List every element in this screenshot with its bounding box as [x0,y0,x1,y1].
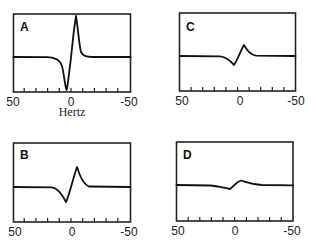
panel-a-trace [14,16,131,90]
panel-a-xlabel: Hertz [59,105,86,119]
panel-c-xtick-neg50: -50 [287,94,305,108]
panel-c: C 50 0 -50 [175,13,305,108]
panel-b-xtick-50: 50 [8,225,22,239]
panel-b-label: B [20,148,29,162]
panel-b-xtick-0: 0 [69,225,76,239]
panel-d-xtick-0: 0 [232,224,239,238]
panel-b-xtick-neg50: -50 [120,225,138,239]
panel-a-label: A [20,20,29,34]
panel-d-frame [177,142,294,221]
panel-c-xtick-0: 0 [237,94,244,108]
panel-d: D 50 0 -50 [171,142,301,238]
figure: A 50 0 -50 Hertz C 50 0 -50 B [0,0,312,243]
panel-b: B 50 0 -50 [8,143,138,239]
panel-a: A 50 0 -50 Hertz [6,14,138,119]
panel-c-label: C [186,20,195,34]
panel-d-xtick-neg50: -50 [283,224,301,238]
panel-d-trace [177,181,294,190]
panel-d-label: D [183,148,192,162]
panel-c-trace [180,45,296,65]
panel-d-xtick-50: 50 [171,224,185,238]
panel-b-trace [14,167,131,202]
panel-a-xtick-neg50: -50 [120,95,138,109]
panel-c-xtick-50: 50 [175,94,189,108]
panel-a-xtick-50: 50 [6,95,20,109]
panel-c-frame [180,13,296,91]
